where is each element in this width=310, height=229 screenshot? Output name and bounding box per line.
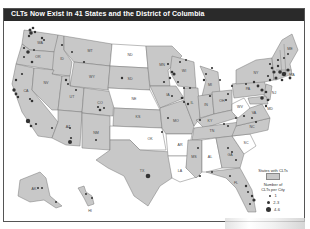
- svg-text:GA: GA: [227, 153, 233, 157]
- svg-text:NJ: NJ: [272, 91, 277, 95]
- svg-text:MA: MA: [289, 73, 295, 77]
- state-hi: [78, 186, 94, 206]
- svg-text:AR: AR: [178, 143, 183, 147]
- svg-text:FL: FL: [234, 181, 238, 185]
- svg-text:MN: MN: [159, 63, 165, 67]
- svg-text:ME: ME: [287, 47, 293, 51]
- svg-text:ND: ND: [127, 53, 133, 57]
- svg-text:SC: SC: [244, 141, 249, 145]
- svg-text:OR: OR: [35, 55, 41, 59]
- svg-text:AL: AL: [208, 155, 212, 159]
- legend-dot-large-icon: [266, 207, 271, 212]
- svg-text:NY: NY: [254, 71, 260, 75]
- svg-text:NM: NM: [93, 131, 99, 135]
- svg-text:MS: MS: [191, 155, 197, 159]
- svg-text:NE: NE: [132, 97, 138, 101]
- scan-artifact: [225, 218, 305, 229]
- svg-text:MD: MD: [267, 107, 273, 111]
- svg-text:CO: CO: [97, 101, 103, 105]
- svg-text:ID: ID: [60, 57, 64, 61]
- svg-text:WY: WY: [89, 75, 95, 79]
- svg-text:MI: MI: [208, 83, 212, 87]
- legend-dot-medium-icon: [267, 201, 271, 205]
- svg-text:MT: MT: [87, 49, 93, 53]
- svg-text:OK: OK: [147, 137, 153, 141]
- svg-text:UT: UT: [70, 95, 76, 99]
- svg-text:KY: KY: [208, 119, 213, 123]
- svg-text:NV: NV: [44, 81, 50, 85]
- svg-text:CA: CA: [24, 89, 30, 93]
- state-md: [248, 96, 268, 104]
- legend-dot-small-icon: [269, 195, 271, 197]
- svg-text:LA: LA: [178, 169, 183, 173]
- svg-text:NC: NC: [249, 125, 255, 129]
- svg-text:SD: SD: [128, 77, 133, 81]
- svg-text:IA: IA: [166, 93, 170, 97]
- svg-text:WV: WV: [237, 105, 243, 109]
- svg-text:IL: IL: [191, 101, 194, 105]
- legend-states-swatch: [266, 173, 280, 180]
- map-legend: States with CLTs Number of CLTs per City…: [244, 168, 302, 213]
- svg-text:PA: PA: [246, 87, 251, 91]
- svg-text:OH: OH: [219, 99, 225, 103]
- svg-text:WI: WI: [182, 69, 186, 73]
- legend-size-3: 4-6: [274, 207, 280, 212]
- svg-text:VA: VA: [252, 111, 257, 115]
- svg-text:TN: TN: [210, 129, 215, 133]
- svg-text:MO: MO: [173, 119, 179, 123]
- svg-text:TX: TX: [140, 169, 145, 173]
- legend-size-1: 1: [274, 193, 276, 198]
- svg-text:AK: AK: [32, 187, 37, 191]
- svg-text:IN: IN: [204, 103, 208, 107]
- svg-text:HI: HI: [88, 209, 92, 213]
- svg-text:KS: KS: [136, 115, 141, 119]
- svg-text:WA: WA: [37, 41, 43, 45]
- legend-size-2: 2-3: [273, 200, 279, 205]
